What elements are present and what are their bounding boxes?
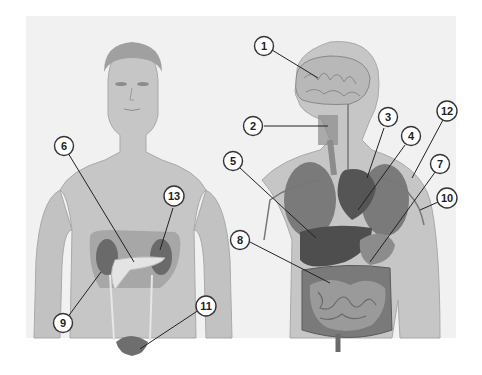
front-right-eye [137,82,149,86]
callout-4[interactable]: 4 [402,127,421,146]
callout-2-label: 2 [250,120,256,132]
front-right-arm [194,190,232,338]
side-brain [296,56,370,105]
callout-10-label: 10 [441,192,453,204]
callout-8[interactable]: 8 [231,231,250,250]
callout-11-label: 11 [200,300,212,312]
callout-3[interactable]: 3 [379,108,398,127]
callout-13-label: 13 [168,190,180,202]
callout-4-label: 4 [408,130,415,142]
front-bladder [116,336,148,356]
callout-1-label: 1 [261,40,267,52]
callout-5[interactable]: 5 [224,152,243,171]
callout-9[interactable]: 9 [54,314,73,333]
callout-8-label: 8 [237,234,243,246]
callout-9-label: 9 [60,317,66,329]
anatomy-diagram: 1 2 3 4 5 6 7 8 9 10 11 12 13 [0,0,482,375]
callout-13[interactable]: 13 [164,186,184,206]
callout-2[interactable]: 2 [244,117,263,136]
callout-11[interactable]: 11 [196,296,216,316]
callout-6-label: 6 [61,140,67,152]
callout-1[interactable]: 1 [255,37,274,56]
side-view-figure [262,42,440,352]
callout-10[interactable]: 10 [437,188,457,208]
callout-3-label: 3 [385,111,391,123]
callout-7-label: 7 [437,158,443,170]
callout-6[interactable]: 6 [55,137,74,156]
callout-12-label: 12 [441,105,453,117]
callout-12[interactable]: 12 [437,101,457,121]
callout-5-label: 5 [230,155,236,167]
front-torso [60,46,206,338]
side-esophagus [330,140,334,175]
callout-7[interactable]: 7 [431,155,450,174]
front-left-eye [115,82,127,86]
